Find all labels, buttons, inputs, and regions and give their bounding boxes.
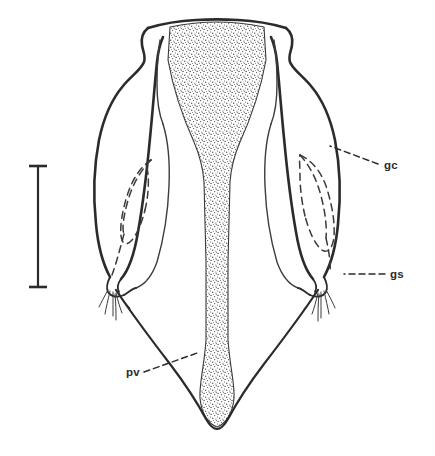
right-gonocoxite-internal-dashed [300, 155, 335, 272]
figure-canvas: gc gs pv [0, 0, 435, 456]
label-gc: gc [384, 159, 398, 171]
label-gs: gs [390, 268, 404, 280]
leader-pv [144, 352, 200, 372]
label-pv: pv [126, 366, 140, 378]
scale-bar [29, 165, 47, 288]
line-drawing: gc gs pv [0, 0, 435, 456]
